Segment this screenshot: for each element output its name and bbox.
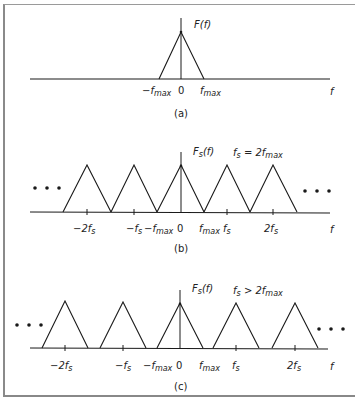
- tick-label-neg-fmax: −fmax: [144, 223, 174, 236]
- tick-label-neg-2fs: −2fs: [50, 360, 72, 373]
- tick-label-fmax: fmax: [199, 223, 220, 236]
- axis-label-f: f: [330, 86, 335, 97]
- tick-label-neg-fmax: −fmax: [142, 85, 172, 98]
- caption-c: (c): [174, 381, 187, 392]
- tick-label-zero: 0: [178, 85, 184, 96]
- ellipsis-right: [317, 327, 345, 331]
- tick-label-fs: fs: [223, 223, 231, 236]
- tick-label-fs: fs: [232, 360, 240, 373]
- ellipsis-left: [33, 186, 61, 190]
- panel-b: Fs(f) fs = 2fmax −2fs −fs −fmax 0 fmax f…: [30, 146, 335, 254]
- tick-label-neg-fs: −fs: [126, 223, 142, 236]
- spectrum-replica-neg-fs: [111, 165, 157, 212]
- spectrum-replica-neg-2fs: [63, 165, 111, 212]
- tick-label-neg-2fs: −2fs: [73, 223, 95, 236]
- tick-label-fmax: fmax: [200, 85, 221, 98]
- function-label-F: F(f): [194, 19, 211, 30]
- spectrum-replica-fs: [204, 165, 250, 212]
- sampling-condition: fs = 2fmax: [233, 147, 283, 160]
- axis-label-f: f: [330, 224, 335, 235]
- tick-label-fmax: fmax: [199, 360, 220, 373]
- ellipsis-left: [15, 323, 43, 327]
- spectrum-replica-2fs: [250, 165, 297, 212]
- panel-a: F(f) −fmax 0 fmax f (a): [30, 18, 335, 119]
- peak-dot: [179, 303, 182, 306]
- peak-dot: [180, 165, 183, 168]
- tick-label-2fs: 2fs: [264, 223, 278, 236]
- frequency-axis: [30, 212, 330, 213]
- spectrum-replica-neg-fs: [100, 302, 146, 348]
- tick-label-neg-fs: −fs: [115, 360, 131, 373]
- axis-label-f: f: [330, 361, 335, 372]
- frequency-axis: [30, 348, 328, 349]
- tick-label-zero: 0: [176, 360, 182, 371]
- caption-a: (a): [174, 108, 188, 119]
- spectrum-replica-fs: [213, 303, 259, 348]
- spectrum-replica-neg-2fs: [42, 301, 88, 348]
- tick-label-2fs: 2fs: [287, 360, 301, 373]
- ellipsis-right: [303, 189, 331, 193]
- sampling-condition: fs > 2fmax: [233, 285, 283, 298]
- function-label-Fs: Fs(f): [192, 283, 213, 296]
- tick-label-zero: 0: [177, 223, 183, 234]
- tick-label-neg-fmax: −fmax: [143, 360, 173, 373]
- function-label-Fs: Fs(f): [193, 146, 214, 159]
- spectrum-replica-2fs: [272, 303, 318, 348]
- peak-dot: [180, 31, 183, 34]
- sampling-spectrum-diagram: F(f) −fmax 0 fmax f (a): [0, 0, 356, 400]
- panel-c: Fs(f) fs > 2fmax −2fs −fs −fmax 0 fmax f…: [15, 283, 345, 392]
- caption-b: (b): [174, 243, 188, 254]
